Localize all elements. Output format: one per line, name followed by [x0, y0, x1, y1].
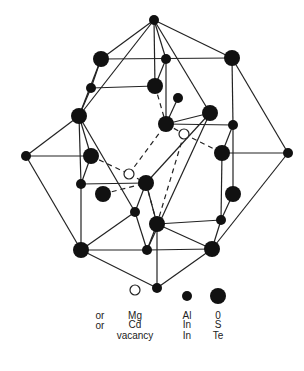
- bond: [232, 58, 233, 125]
- large-atom-icon: [147, 78, 163, 94]
- small-atom-icon: [161, 54, 171, 64]
- large-atom-icon: [214, 145, 230, 161]
- bond: [79, 116, 81, 184]
- bond: [26, 116, 79, 156]
- large-atom-icon: [224, 50, 240, 66]
- small-atom-icon: [228, 120, 238, 130]
- legend-hollow-atom-icon: [130, 285, 140, 295]
- large-atom-icon: [204, 241, 220, 257]
- legend-row-3-col2: In: [177, 330, 197, 341]
- legend-small-atom-icon: [182, 291, 192, 301]
- legend-row-2-prefix: or: [90, 320, 110, 331]
- bond: [212, 153, 288, 249]
- large-atom-icon: [95, 186, 111, 202]
- bond: [146, 113, 210, 183]
- large-atom-icon: [71, 108, 87, 124]
- crystal-structure-diagram: Mg Al 0 or Cd In S or vacancy In Te: [0, 0, 304, 371]
- bond: [81, 212, 135, 250]
- bond: [81, 183, 146, 184]
- small-atom-icon: [283, 148, 293, 158]
- legend-row-3-col3: Te: [208, 330, 228, 341]
- small-atom-icon: [86, 83, 96, 93]
- legend-row-2-col2: In: [177, 319, 197, 330]
- bond: [135, 212, 147, 250]
- vacancy-atom-icon: [179, 129, 189, 139]
- bond: [154, 20, 155, 86]
- small-atom-icon: [149, 15, 159, 25]
- legend-large-atom-icon: [210, 288, 226, 304]
- bond: [232, 58, 288, 153]
- large-atom-icon: [225, 186, 241, 202]
- small-atom-icon: [21, 151, 31, 161]
- bond: [157, 220, 221, 224]
- small-atom-icon: [173, 93, 183, 103]
- large-atom-icon: [202, 105, 218, 121]
- large-atom-icon: [158, 116, 174, 132]
- legend-row-2-col1: Cd: [117, 319, 153, 330]
- bond: [157, 224, 212, 249]
- large-atom-icon: [83, 148, 99, 164]
- legend-row-2-col3: S: [208, 319, 228, 330]
- small-atom-icon: [216, 215, 226, 225]
- large-atom-icon: [138, 175, 154, 191]
- bond: [157, 249, 212, 288]
- bond: [154, 20, 166, 59]
- small-atom-icon: [152, 283, 162, 293]
- legend-row-3-col1: vacancy: [110, 330, 160, 341]
- bond: [26, 156, 81, 250]
- bond: [91, 86, 155, 88]
- small-atom-icon: [130, 207, 140, 217]
- large-atom-icon: [73, 242, 89, 258]
- large-atom-icon: [93, 51, 109, 67]
- bond: [221, 153, 222, 220]
- small-atom-icon: [142, 245, 152, 255]
- large-atom-icon: [149, 216, 165, 232]
- bond: [81, 250, 157, 288]
- legend-row-1-or: or: [90, 310, 110, 321]
- vacancy-atom-icon: [124, 169, 134, 179]
- small-atom-icon: [76, 179, 86, 189]
- bond: [79, 20, 154, 116]
